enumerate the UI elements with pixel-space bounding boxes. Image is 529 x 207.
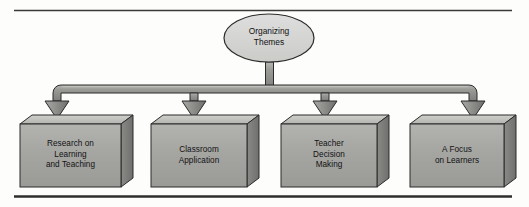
box-3-top	[281, 115, 389, 124]
box-1-face	[20, 124, 121, 187]
box-2-side	[247, 115, 259, 187]
box-4-top	[410, 115, 516, 124]
box-teacher-decision-making[interactable]	[281, 115, 389, 187]
box-3-side	[377, 115, 389, 187]
connector-bus	[53, 85, 477, 101]
box-a-focus-on-learners[interactable]	[410, 115, 516, 187]
organizing-themes-label: Organizing Themes	[219, 26, 319, 48]
box-research-on-learning-and-teaching[interactable]	[20, 115, 133, 187]
box-4-face	[410, 124, 504, 187]
box-1-side	[121, 115, 133, 187]
connector-drop-3	[321, 93, 329, 101]
box-2-top	[151, 115, 259, 124]
box-classroom-application[interactable]	[151, 115, 259, 187]
box-2-face	[151, 124, 247, 187]
box-3-face	[281, 124, 377, 187]
figure-root: Organizing Themes Research on Learning a…	[0, 0, 529, 207]
box-1-top	[20, 115, 133, 124]
box-4-side	[504, 115, 516, 187]
connector-drop-2	[190, 93, 198, 101]
connector-network	[45, 62, 485, 119]
